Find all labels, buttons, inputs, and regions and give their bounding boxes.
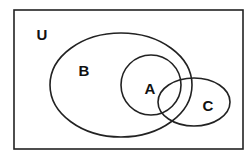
set-b-label: B — [79, 63, 90, 78]
set-a-label: A — [145, 81, 156, 96]
universe-label: U — [37, 27, 48, 42]
venn-diagram — [0, 0, 252, 157]
set-c-label: C — [203, 98, 214, 113]
